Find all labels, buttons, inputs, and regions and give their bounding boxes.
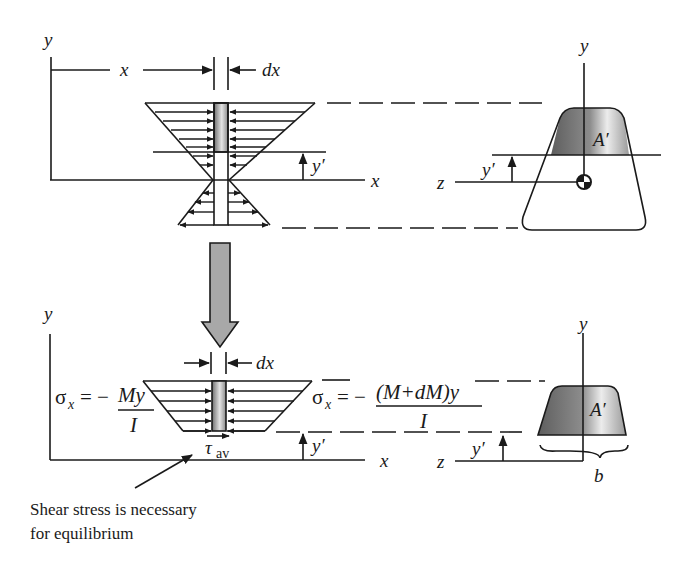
upper-stress-arrows (155, 112, 305, 165)
bottom-y-label: y (42, 303, 53, 324)
top-x-dim-label: x (119, 59, 129, 80)
bottom-dx-label: dx (256, 352, 275, 373)
upper-stress-left-edge (145, 103, 213, 180)
centroid-icon (577, 175, 591, 189)
tau-symbol: τ (205, 437, 213, 458)
bottom-section-z-label: z (436, 451, 445, 472)
bottom-section-y-label: y (577, 313, 588, 334)
left-numerator: My (117, 383, 145, 407)
left-sigma-sub: x (67, 397, 75, 412)
bottom-section-y-prime-label: y′ (470, 438, 485, 459)
right-numerator: (M+dM)y (376, 380, 460, 404)
right-equals: = − (337, 385, 366, 409)
right-denominator: I (419, 409, 428, 433)
bottom-panel (50, 334, 545, 488)
bottom-element-strip (212, 381, 226, 431)
top-y-label: y (42, 29, 53, 50)
right-sigma-sub: x (324, 397, 332, 412)
element-shaded-portion (214, 103, 228, 152)
top-panel (50, 57, 542, 228)
left-denominator: I (129, 413, 138, 437)
left-equals: = − (80, 385, 109, 409)
section-z-label: z (436, 172, 445, 193)
section-y-label: y (578, 35, 589, 56)
upper-stress-right-edge (229, 103, 315, 180)
left-sigma: σ (55, 385, 66, 409)
width-b-label: b (594, 465, 604, 486)
bottom-stress-arrows (151, 391, 303, 431)
top-x-axis-label: x (370, 170, 380, 191)
bottom-y-prime-label: y′ (310, 435, 325, 456)
section-y-prime-label: y′ (480, 159, 495, 180)
bottom-stress-right-edge (265, 381, 312, 431)
bottom-section-area-label: A′ (588, 399, 607, 420)
top-cross-section (455, 63, 661, 230)
top-dx-label: dx (262, 59, 281, 80)
tau-subscript: av (216, 446, 229, 461)
labels: y x dx y′ x y z y′ A′ y dx y′ x τ av σ x… (42, 29, 610, 486)
bottom-x-axis-label: x (379, 450, 389, 471)
bottom-stress-left-edge (143, 381, 183, 431)
width-brace (540, 445, 628, 458)
top-y-prime-label: y′ (310, 155, 325, 176)
section-area-label: A′ (591, 129, 610, 150)
caption-line-1: Shear stress is necessary (30, 498, 197, 522)
down-arrow-icon (202, 243, 238, 347)
bottom-area-a-prime (538, 386, 626, 435)
area-a-prime-shaded (551, 108, 629, 155)
right-sigma: σ (312, 385, 323, 409)
figure-caption: Shear stress is necessary for equilibriu… (30, 498, 197, 546)
shear-equilibrium-diagram: y x dx y′ x y z y′ A′ y dx y′ x τ av σ x… (0, 0, 693, 576)
caption-line-2: for equilibrium (30, 522, 197, 546)
